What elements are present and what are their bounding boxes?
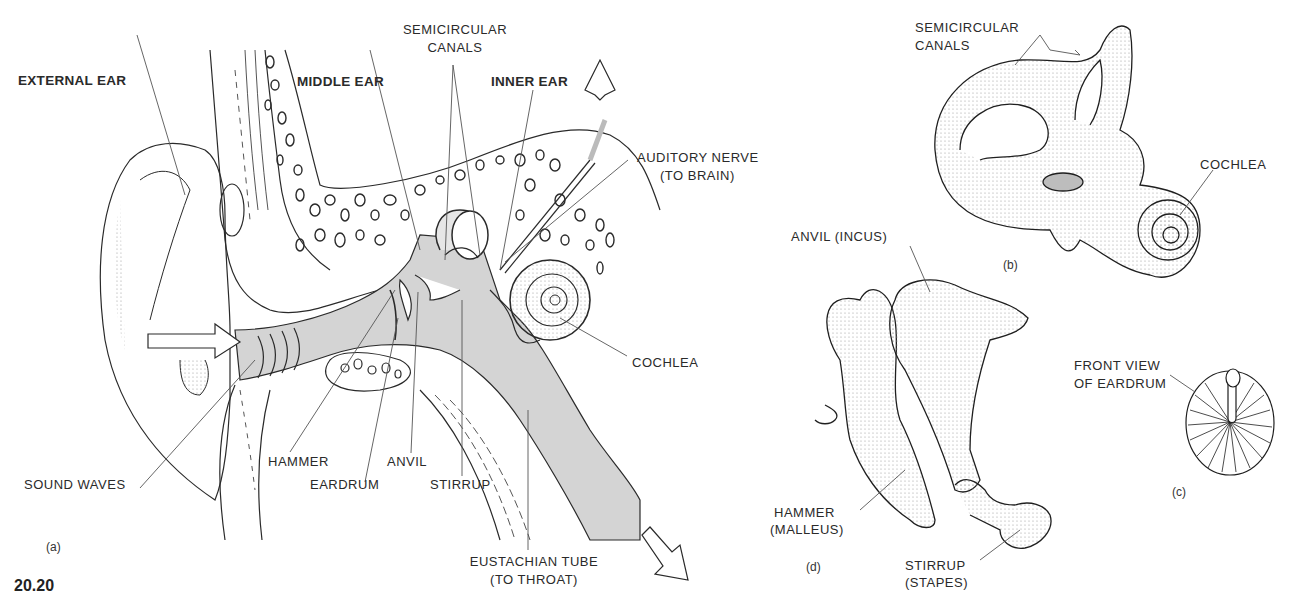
label-stirrup-stapes-line1: STIRRUP	[905, 558, 966, 574]
label-stirrup-a: STIRRUP	[430, 477, 491, 493]
panel-tag-d: (d)	[806, 560, 821, 574]
label-anvil-incus: ANVIL (INCUS)	[791, 229, 887, 245]
label-auditory-nerve-line1: AUDITORY NERVE	[637, 150, 759, 166]
label-anvil-a: ANVIL	[387, 454, 427, 470]
arrow-to-brain-icon	[585, 60, 615, 100]
panel-b-labyrinth	[935, 26, 1213, 277]
label-semicircular-canals-b-line1: SEMICIRCULAR	[915, 20, 1019, 36]
label-cochlea-b: COCHLEA	[1200, 157, 1266, 173]
label-hammer-malleus-line1: HAMMER	[774, 505, 835, 521]
panel-a-cross-section	[100, 35, 688, 580]
label-semicircular-canals-a-line2: CANALS	[385, 40, 525, 56]
panel-tag-c: (c)	[1172, 485, 1186, 499]
label-eardrum: EARDRUM	[310, 477, 379, 493]
label-hammer-malleus-line2: (MALLEUS)	[770, 522, 844, 538]
label-inner-ear: INNER EAR	[491, 74, 568, 90]
panel-tag-a: (a)	[46, 540, 61, 554]
label-cochlea-a: COCHLEA	[632, 355, 698, 371]
label-eustachian-tube-line1: EUSTACHIAN TUBE	[454, 554, 614, 570]
label-front-view-line1: FRONT VIEW	[1074, 358, 1160, 374]
label-hammer-a: HAMMER	[268, 454, 329, 470]
figure-number: 20.20	[14, 577, 54, 595]
label-middle-ear: MIDDLE EAR	[297, 74, 384, 90]
label-semicircular-canals-a-line1: SEMICIRCULAR	[385, 22, 525, 38]
label-front-view-line2: OF EARDRUM	[1074, 376, 1166, 392]
panel-c-eardrum-front	[1170, 369, 1274, 475]
arrow-to-throat-icon	[642, 527, 688, 580]
label-semicircular-canals-b-line2: CANALS	[915, 38, 970, 54]
label-external-ear: EXTERNAL EAR	[18, 73, 126, 89]
label-stirrup-stapes-line2: (STAPES)	[905, 575, 968, 591]
ear-diagram-artwork	[0, 0, 1289, 607]
label-auditory-nerve-line2: (TO BRAIN)	[660, 168, 735, 184]
panel-tag-b: (b)	[1003, 258, 1018, 272]
label-eustachian-tube-line2: (TO THROAT)	[454, 572, 614, 588]
panel-d-ossicles	[815, 246, 1051, 560]
label-sound-waves: SOUND WAVES	[24, 477, 126, 493]
